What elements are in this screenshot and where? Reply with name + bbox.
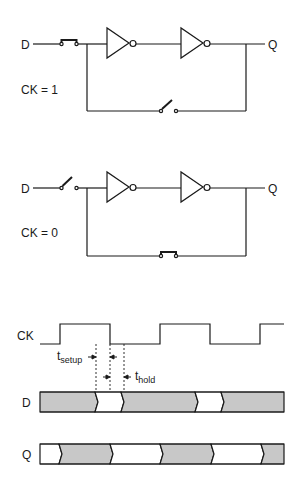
switch-contact xyxy=(159,254,162,257)
hold-arrows xyxy=(103,375,131,379)
q-label: Q xyxy=(22,448,31,462)
clock-label: CK xyxy=(17,329,34,343)
switch-contact xyxy=(174,109,177,112)
input-label: D xyxy=(21,38,30,52)
inverter-icon xyxy=(181,28,203,58)
switch-contact xyxy=(60,186,63,189)
switch-contact xyxy=(174,254,177,257)
setup-time-label: tsetup xyxy=(57,349,82,365)
closed-switch-icon xyxy=(161,252,176,254)
switch-contact xyxy=(75,186,78,189)
open-switch-icon xyxy=(63,177,73,186)
output-label: Q xyxy=(268,182,277,196)
output-waveform xyxy=(40,444,284,464)
setup-arrows xyxy=(88,355,117,359)
latch-diagram: D Q CK = 1 D Q CK = 0 CK D Q tsetup thol… xyxy=(0,0,298,489)
switch-contact xyxy=(75,42,78,45)
inverter-bubble xyxy=(130,41,136,47)
inverter-icon xyxy=(107,172,129,202)
inverter-bubble xyxy=(204,41,210,47)
switch-contact xyxy=(159,109,162,112)
clock-state-label: CK = 1 xyxy=(21,83,58,97)
open-switch-icon xyxy=(162,100,172,109)
data-label: D xyxy=(22,396,31,410)
clock-waveform xyxy=(40,324,284,344)
closed-switch-icon xyxy=(62,40,77,42)
inverter-bubble xyxy=(204,185,210,191)
clock-state-label: CK = 0 xyxy=(21,226,58,240)
inverter-icon xyxy=(107,28,129,58)
timing-markers xyxy=(96,344,124,395)
inverter-bubble xyxy=(130,185,136,191)
hold-time-label: thold xyxy=(135,369,155,385)
output-label: Q xyxy=(268,38,277,52)
circuit-ck0 xyxy=(33,172,265,258)
data-waveform xyxy=(40,392,284,412)
inverter-icon xyxy=(181,172,203,202)
switch-contact xyxy=(60,42,63,45)
circuit-ck1 xyxy=(33,28,265,113)
input-label: D xyxy=(21,182,30,196)
